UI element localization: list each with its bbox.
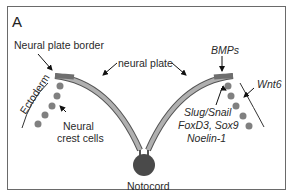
left-border-region <box>55 76 74 77</box>
label-neural-crest-line1: Neural <box>63 121 94 132</box>
label-notochord: Notocord <box>127 181 170 192</box>
label-markers-line1: Slug/Snail <box>184 107 231 118</box>
label-neural-plate-border: Neural plate border <box>14 40 104 51</box>
notochord-icon <box>133 154 155 176</box>
label-bmps: BMPs <box>211 45 239 56</box>
arrow-neural-crest <box>60 106 66 112</box>
arrow-markers <box>216 88 226 105</box>
label-markers-line2: FoxD3, Sox9 <box>178 120 239 131</box>
label-markers-line3: Noelin-1 <box>187 133 226 144</box>
arrow-neural-plate-border <box>38 54 52 70</box>
arrow-neural-plate-right <box>172 63 186 75</box>
label-neural-plate: neural plate <box>118 58 173 69</box>
panel-label: A <box>12 13 22 30</box>
arrow-neural-plate <box>103 63 117 75</box>
neural-plate-diagram <box>0 0 291 195</box>
label-neural-crest-line2: crest cells <box>57 133 104 144</box>
label-wnt6: Wnt6 <box>257 79 282 90</box>
right-border-region <box>214 76 233 77</box>
